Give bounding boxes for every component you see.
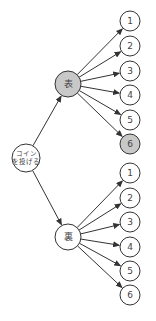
leaf-node-tails-1-label: 1 (127, 168, 133, 178)
edge-tails-to-4 (81, 239, 119, 245)
branch-node-heads: 表 (55, 71, 81, 97)
leaf-node-tails-2: 2 (120, 188, 140, 208)
nodes: コインを投げる表123456裏123456 (12, 11, 140, 305)
leaf-node-heads-3-label: 3 (127, 66, 133, 76)
leaf-node-heads-2-label: 2 (127, 41, 133, 51)
branch-node-heads-label: 表 (64, 78, 73, 89)
leaf-node-tails-4: 4 (120, 237, 140, 257)
leaf-node-heads-2: 2 (120, 36, 140, 56)
root-node-coin-toss-label: コイン (16, 150, 37, 158)
leaf-node-tails-6-label: 6 (127, 290, 133, 300)
leaf-node-tails-2-label: 2 (127, 193, 133, 203)
leaf-node-heads-4-label: 4 (127, 90, 133, 100)
edge-heads-to-6 (77, 93, 122, 136)
edge-tails-to-5 (79, 243, 120, 265)
edges (33, 29, 123, 288)
coin-dice-tree-diagram: コインを投げる表123456裏123456 (0, 0, 156, 321)
edge-heads-to-1 (77, 29, 122, 75)
leaf-node-tails-1: 1 (120, 163, 140, 183)
leaf-node-heads-1-label: 1 (127, 16, 133, 26)
leaf-node-heads-4: 4 (120, 85, 140, 105)
leaf-node-tails-5-label: 5 (127, 266, 133, 276)
leaf-node-tails-5: 5 (120, 261, 140, 281)
edge-root-to-heads (33, 96, 61, 146)
edge-root-to-tails (33, 170, 62, 224)
leaf-node-heads-3: 3 (120, 61, 140, 81)
root-node-coin-toss-label: を投げる (12, 157, 40, 166)
leaf-node-heads-6-label: 6 (127, 139, 133, 149)
branch-node-tails-label: 裏 (64, 231, 73, 242)
edge-heads-to-3 (81, 73, 120, 81)
edge-heads-to-5 (79, 91, 120, 115)
edge-heads-to-2 (79, 52, 121, 77)
root-node-coin-toss: コインを投げる (12, 144, 40, 172)
leaf-node-heads-6: 6 (120, 134, 140, 154)
leaf-node-tails-4-label: 4 (127, 242, 133, 252)
edge-tails-to-1 (77, 181, 122, 228)
leaf-node-heads-5: 5 (120, 110, 140, 130)
edge-heads-to-4 (81, 86, 119, 93)
leaf-node-heads-1: 1 (120, 11, 140, 31)
leaf-node-heads-5-label: 5 (127, 115, 133, 125)
edge-tails-to-6 (77, 246, 121, 288)
leaf-node-tails-3-label: 3 (127, 217, 133, 227)
leaf-node-tails-6: 6 (120, 285, 140, 305)
leaf-node-tails-3: 3 (120, 212, 140, 232)
branch-node-tails: 裏 (55, 224, 81, 250)
